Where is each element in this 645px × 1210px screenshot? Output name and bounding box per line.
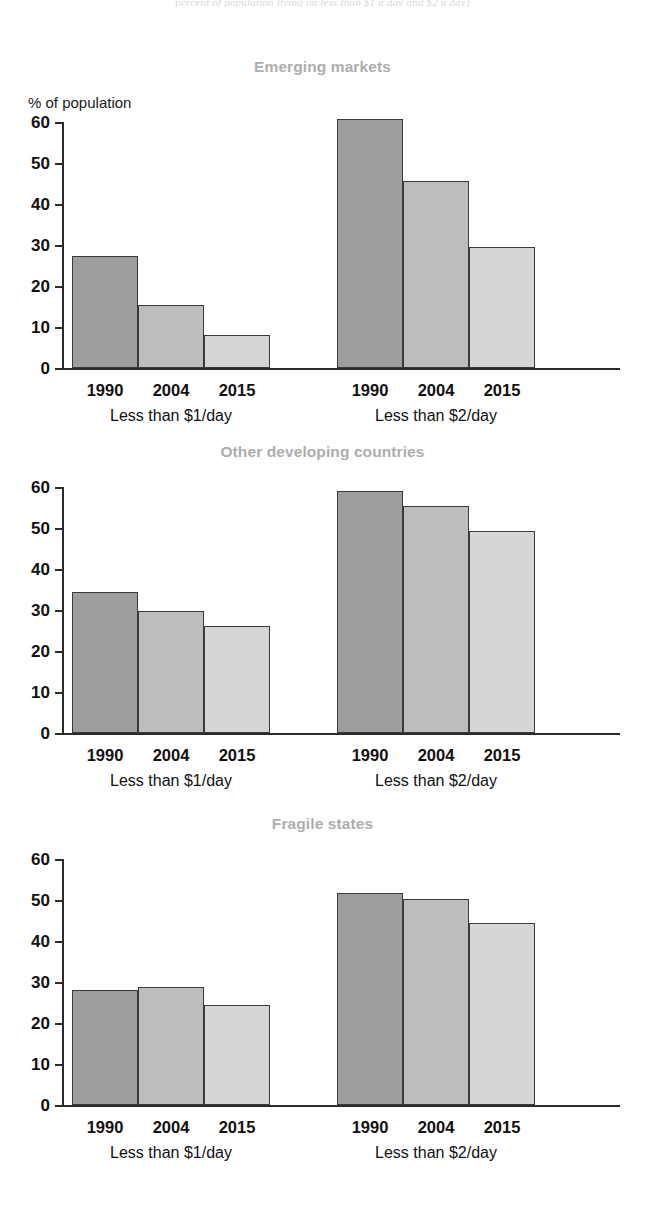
y-axis-tick xyxy=(55,163,63,165)
y-axis-tick xyxy=(55,327,63,329)
y-axis-tick-label: 60 xyxy=(16,114,50,131)
panel-title: Emerging markets xyxy=(0,58,645,76)
y-axis-tick xyxy=(55,245,63,247)
y-axis-tick xyxy=(55,1105,63,1107)
bar xyxy=(138,611,204,733)
y-axis-tick-label: 50 xyxy=(16,520,50,537)
plot-area: 6050403020100 xyxy=(62,487,620,733)
y-axis-tick xyxy=(55,733,63,735)
bar xyxy=(138,987,204,1105)
x-axis-group-label: Less than $2/day xyxy=(337,1145,535,1161)
y-axis-tick xyxy=(55,982,63,984)
bar xyxy=(72,990,138,1105)
x-axis-line xyxy=(62,1105,620,1107)
y-axis-tick xyxy=(55,1023,63,1025)
x-axis-year-label: 1990 xyxy=(72,747,138,764)
x-axis-year-label: 2015 xyxy=(469,1119,535,1136)
x-axis-group-label: Less than $1/day xyxy=(72,1145,270,1161)
clipped-caption: percent of population living on less tha… xyxy=(0,0,645,7)
x-axis-year-label: 1990 xyxy=(337,382,403,399)
y-axis-tick-label: 10 xyxy=(16,319,50,336)
x-axis-year-label: 2015 xyxy=(469,747,535,764)
x-axis-year-label: 2004 xyxy=(403,1119,469,1136)
bar xyxy=(204,335,270,368)
x-axis-year-label: 2004 xyxy=(138,747,204,764)
y-axis-tick xyxy=(55,1064,63,1066)
y-axis-tick-label: 0 xyxy=(16,725,50,742)
x-axis-line xyxy=(62,368,620,370)
x-axis-year-label: 2015 xyxy=(204,1119,270,1136)
x-axis-group-label: Less than $1/day xyxy=(72,408,270,424)
x-axis-group-label: Less than $2/day xyxy=(337,408,535,424)
y-axis-tick xyxy=(55,941,63,943)
x-axis-year-label: 2004 xyxy=(403,382,469,399)
y-axis-tick-label: 30 xyxy=(16,237,50,254)
y-axis-tick xyxy=(55,900,63,902)
y-axis-tick xyxy=(55,692,63,694)
y-axis-tick-label: 60 xyxy=(16,851,50,868)
y-axis-tick xyxy=(55,122,63,124)
x-axis-year-label: 2015 xyxy=(204,382,270,399)
x-axis-year-label: 2004 xyxy=(403,747,469,764)
y-axis-tick xyxy=(55,528,63,530)
bar xyxy=(403,899,469,1105)
bar xyxy=(469,247,535,368)
plot-area: 6050403020100 xyxy=(62,859,620,1105)
bar xyxy=(138,305,204,368)
y-axis-label: % of population xyxy=(28,94,131,111)
bar xyxy=(403,506,469,733)
y-axis-tick-label: 30 xyxy=(16,974,50,991)
bar xyxy=(469,531,535,733)
y-axis-tick-label: 0 xyxy=(16,1097,50,1114)
y-axis-tick-label: 50 xyxy=(16,155,50,172)
plot-area: 6050403020100 xyxy=(62,122,620,368)
y-axis-tick-label: 20 xyxy=(16,1015,50,1032)
bar xyxy=(403,181,469,368)
bar xyxy=(337,119,403,368)
y-axis-tick xyxy=(55,569,63,571)
x-axis-year-label: 2004 xyxy=(138,1119,204,1136)
x-axis-group-label: Less than $1/day xyxy=(72,773,270,789)
y-axis-tick-label: 20 xyxy=(16,278,50,295)
y-axis-tick-label: 50 xyxy=(16,892,50,909)
bar xyxy=(204,1005,270,1105)
x-axis-year-label: 2004 xyxy=(138,382,204,399)
panel-title: Other developing countries xyxy=(0,443,645,461)
panel-title: Fragile states xyxy=(0,815,645,833)
y-axis-tick-label: 10 xyxy=(16,1056,50,1073)
x-axis-year-label: 1990 xyxy=(337,747,403,764)
x-axis-group-label: Less than $2/day xyxy=(337,773,535,789)
x-axis-year-label: 1990 xyxy=(72,1119,138,1136)
y-axis-tick xyxy=(55,651,63,653)
y-axis-tick xyxy=(55,859,63,861)
y-axis-tick xyxy=(55,204,63,206)
y-axis-tick-label: 20 xyxy=(16,643,50,660)
y-axis-tick-label: 40 xyxy=(16,933,50,950)
bar xyxy=(469,923,535,1105)
y-axis-tick xyxy=(55,368,63,370)
x-axis-year-label: 2015 xyxy=(469,382,535,399)
bar xyxy=(72,256,138,368)
y-axis-tick-label: 40 xyxy=(16,561,50,578)
y-axis-tick xyxy=(55,487,63,489)
bar xyxy=(337,893,403,1105)
y-axis-tick-label: 30 xyxy=(16,602,50,619)
y-axis-tick-label: 60 xyxy=(16,479,50,496)
y-axis-tick-label: 0 xyxy=(16,360,50,377)
y-axis-tick-label: 10 xyxy=(16,684,50,701)
bar xyxy=(337,491,403,733)
y-axis-tick-label: 40 xyxy=(16,196,50,213)
x-axis-year-label: 1990 xyxy=(337,1119,403,1136)
x-axis-line xyxy=(62,733,620,735)
y-axis-tick xyxy=(55,286,63,288)
y-axis-tick xyxy=(55,610,63,612)
x-axis-year-label: 1990 xyxy=(72,382,138,399)
bar xyxy=(204,626,270,733)
x-axis-year-label: 2015 xyxy=(204,747,270,764)
bar xyxy=(72,592,138,733)
